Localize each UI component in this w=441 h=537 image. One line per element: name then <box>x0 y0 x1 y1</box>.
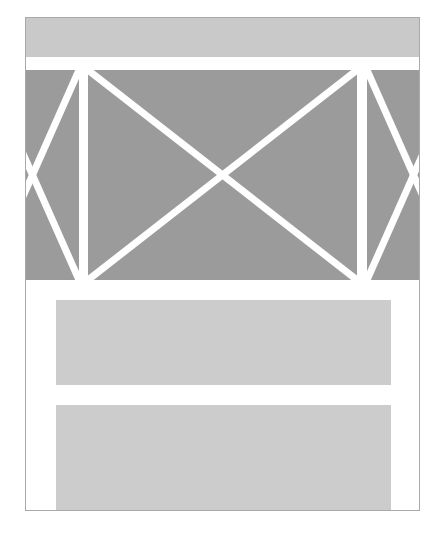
content-block-2 <box>56 405 391 510</box>
media-placeholder-center <box>88 70 357 280</box>
media-placeholder-left <box>26 70 79 280</box>
image-placeholder-cross-icon <box>367 70 419 280</box>
content-block-1 <box>56 300 391 385</box>
media-row <box>26 70 419 280</box>
image-placeholder-cross-icon <box>26 70 79 280</box>
header-band-block <box>26 18 419 57</box>
page-frame <box>25 17 420 511</box>
media-placeholder-right <box>367 70 419 280</box>
screenshot-canvas <box>0 0 441 537</box>
image-placeholder-cross-icon <box>88 70 357 280</box>
